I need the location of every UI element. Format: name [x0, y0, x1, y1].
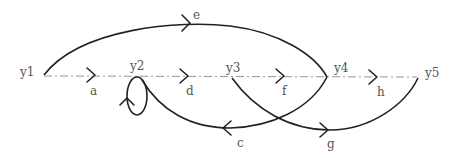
branch-g-curve	[232, 78, 418, 130]
branch-f-arrow-icon	[276, 69, 284, 83]
branch-e-arrow-icon	[182, 15, 190, 31]
branch-e-curve	[44, 24, 327, 77]
branch-e-label: e	[193, 8, 200, 22]
node-y2-label: y2	[129, 59, 144, 73]
node-y4-label: y4	[333, 61, 349, 75]
branch-d-label: d	[186, 84, 194, 98]
branch-a-arrow-icon	[87, 68, 95, 82]
branch-h-label: h	[377, 85, 385, 99]
branch-c-curve	[142, 77, 327, 128]
node-y1-label: y1	[19, 65, 34, 79]
branch-f-label: f	[282, 84, 288, 98]
forward-path-line	[44, 76, 417, 77]
signal-flow-graph: y1 y2 y3 y4 y5 a d f h e c g	[0, 0, 462, 158]
branch-c-label: c	[237, 136, 244, 150]
node-y3-label: y3	[225, 61, 240, 75]
branch-g-label: g	[327, 137, 335, 151]
node-y5-label: y5	[424, 66, 439, 80]
branch-a-label: a	[90, 84, 97, 98]
